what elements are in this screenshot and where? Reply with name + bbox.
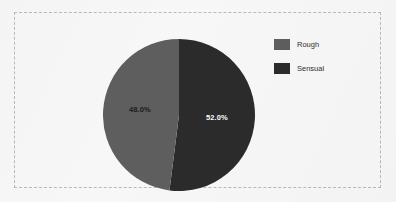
pie-chart: 48.0% 52.0% [103,39,255,191]
plot-area: 48.0% 52.0% Rough Sensual [15,13,380,187]
pie-svg [103,39,255,191]
pie-label-sensual: 52.0% [206,113,228,122]
legend-item-sensual[interactable]: Sensual [274,63,384,74]
chart-canvas: 48.0% 52.0% Rough Sensual [0,0,396,202]
legend-label-rough: Rough [297,39,319,50]
legend-item-rough[interactable]: Rough [274,39,384,50]
legend-swatch-rough [274,39,290,50]
legend-swatch-sensual [274,63,290,74]
pie-label-rough: 48.0% [129,105,151,114]
legend-label-sensual: Sensual [297,63,324,74]
pie-slice-rough[interactable] [103,39,179,190]
figure-frame: 48.0% 52.0% Rough Sensual [14,12,381,188]
legend: Rough Sensual [274,39,384,87]
